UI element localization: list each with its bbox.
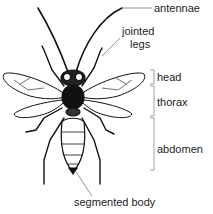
label-segmented-body: segmented body — [74, 196, 155, 208]
region-brackets — [150, 70, 154, 170]
label-thorax: thorax — [157, 96, 188, 108]
label-jointed-legs-line2: legs — [130, 38, 150, 50]
antennae-drawing — [38, 8, 122, 72]
thorax-shape — [62, 85, 84, 109]
body-drawing — [61, 70, 85, 174]
label-jointed-legs-line1: jointed — [122, 25, 154, 37]
label-head: head — [157, 71, 181, 83]
label-abdomen: abdomen — [157, 143, 203, 155]
label-antennae: antennae — [154, 2, 200, 14]
